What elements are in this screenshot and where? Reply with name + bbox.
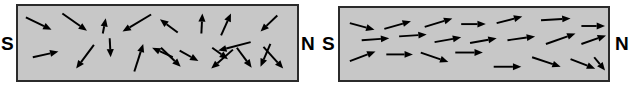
moment-arrow xyxy=(362,35,390,42)
moment-arrow xyxy=(237,48,252,68)
moment-arrow xyxy=(76,45,94,69)
moment-arrow xyxy=(134,44,144,72)
moment-arrow xyxy=(123,15,152,32)
moment-arrow xyxy=(581,23,605,30)
moment-arrow xyxy=(399,32,427,39)
right-panel-north-label: N xyxy=(615,34,629,53)
moment-arrow xyxy=(261,15,278,31)
moment-arrow xyxy=(33,50,59,57)
moment-arrow xyxy=(425,18,453,27)
moment-arrow xyxy=(455,49,483,56)
moment-arrow xyxy=(421,53,449,63)
moment-arrow xyxy=(101,18,108,33)
moment-arrow xyxy=(160,19,178,32)
moment-arrow xyxy=(62,14,87,31)
moment-arrow xyxy=(211,50,233,69)
moment-arrow xyxy=(161,48,181,67)
moment-arrow xyxy=(263,47,283,69)
aligned-domain-panel xyxy=(338,6,610,82)
moment-arrow xyxy=(497,15,523,23)
moment-arrow xyxy=(350,51,376,61)
moment-arrow xyxy=(384,20,411,29)
magnetic-domains-figure: S N S N xyxy=(0,0,644,93)
moment-arrow xyxy=(435,35,462,42)
disordered-domain-arrows xyxy=(18,6,297,80)
left-panel-south-label: S xyxy=(1,34,14,53)
moment-arrow xyxy=(546,33,576,44)
moment-arrow xyxy=(218,42,251,52)
moment-arrow xyxy=(386,51,413,58)
moment-arrow xyxy=(532,57,561,67)
moment-arrow xyxy=(180,51,199,61)
right-panel-south-label: S xyxy=(322,34,335,53)
aligned-domain-arrows xyxy=(340,8,608,80)
moment-arrow xyxy=(350,23,375,31)
moment-arrow xyxy=(260,44,270,67)
moment-arrow xyxy=(470,36,497,43)
moment-arrow xyxy=(221,14,231,36)
moment-arrow xyxy=(461,21,486,28)
moment-arrow xyxy=(541,16,571,23)
moment-arrow xyxy=(571,59,596,69)
moment-arrow xyxy=(198,14,205,34)
moment-arrow xyxy=(594,57,605,70)
moment-arrow xyxy=(508,34,536,41)
moment-arrow xyxy=(581,35,606,44)
disordered-domain-panel xyxy=(16,4,299,82)
moment-arrow xyxy=(26,17,52,29)
left-panel-north-label: N xyxy=(301,34,315,53)
moment-arrow xyxy=(494,63,522,70)
moment-arrow xyxy=(107,38,114,57)
